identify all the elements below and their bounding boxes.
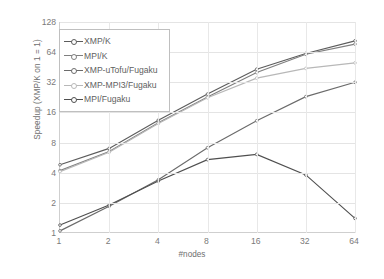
- legend-line-swatch-icon: [64, 51, 83, 60]
- legend-line-swatch-icon: [64, 95, 83, 104]
- data-point-marker: [59, 230, 62, 233]
- speedup-line-chart: Speedup (XMP/K on 1 = 1) 1248163264128 1…: [0, 0, 384, 279]
- chart-legend: XMP/KMPI/KXMP-uTofu/FugakuXMP-MPI3/Fugak…: [59, 29, 170, 112]
- vertical-gridline: [306, 22, 307, 233]
- y-tick-label: 4: [51, 168, 56, 178]
- x-tick-label: 2: [106, 236, 111, 246]
- legend-item[interactable]: MPI/K: [60, 49, 169, 64]
- legend-item[interactable]: XMP-MPI3/Fugaku: [60, 78, 169, 93]
- y-tick-label: 2: [51, 198, 56, 208]
- legend-item-label: XMP/K: [84, 37, 111, 46]
- legend-item-label: MPI/Fugaku: [84, 95, 130, 104]
- x-axis-tick-labels: 1248163264: [0, 236, 384, 250]
- legend-line-swatch-icon: [64, 81, 83, 90]
- vertical-gridline: [355, 22, 356, 233]
- legend-item[interactable]: XMP-uTofu/Fugaku: [60, 63, 169, 78]
- legend-item-label: XMP-uTofu/Fugaku: [84, 66, 158, 75]
- y-tick-label: 8: [51, 138, 56, 148]
- data-point-marker: [59, 224, 62, 227]
- legend-item-label: MPI/K: [84, 52, 107, 61]
- x-tick-label: 32: [300, 236, 310, 246]
- legend-line-swatch-icon: [64, 37, 83, 46]
- x-tick-label: 8: [204, 236, 209, 246]
- legend-item[interactable]: XMP/K: [60, 34, 169, 49]
- y-tick-label: 64: [46, 47, 56, 57]
- x-tick-label: 16: [251, 236, 261, 246]
- legend-item-label: XMP-MPI3/Fugaku: [84, 81, 157, 90]
- y-tick-label: 128: [42, 17, 56, 27]
- x-tick-label: 64: [349, 236, 359, 246]
- legend-line-swatch-icon: [64, 66, 83, 75]
- x-tick-label: 4: [155, 236, 160, 246]
- x-axis-title: #nodes: [0, 250, 384, 259]
- y-tick-label: 32: [46, 77, 56, 87]
- vertical-gridline: [257, 22, 258, 233]
- vertical-gridline: [208, 22, 209, 233]
- x-tick-label: 1: [57, 236, 62, 246]
- y-tick-label: 16: [46, 107, 56, 117]
- legend-item[interactable]: MPI/Fugaku: [60, 92, 169, 107]
- data-point-marker: [59, 163, 62, 166]
